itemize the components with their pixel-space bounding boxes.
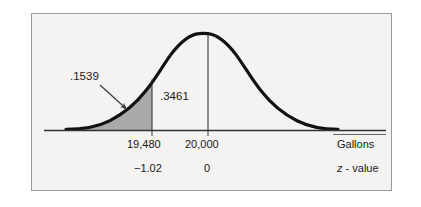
normal-distribution-figure: .1539 .3461 19,480 20,000 −1.02 0 Gallon… — [0, 0, 421, 207]
x-axis-unit-label: Gallons — [337, 139, 374, 150]
normal-curve — [66, 33, 338, 129]
z-tick-label-negative-1-02: −1.02 — [134, 163, 162, 174]
x-tick-label-20000: 20,000 — [185, 139, 219, 150]
mid-area-label: .3461 — [160, 91, 189, 103]
distribution-plot — [0, 0, 421, 207]
x-tick-label-19480: 19,480 — [127, 139, 161, 150]
tail-area-callout-arrow — [100, 85, 127, 109]
z-axis-unit-label: z - value — [337, 163, 379, 174]
z-axis-unit-label-text: - value — [343, 162, 379, 174]
tail-area-label: .1539 — [70, 71, 99, 83]
z-tick-label-zero: 0 — [204, 163, 210, 174]
